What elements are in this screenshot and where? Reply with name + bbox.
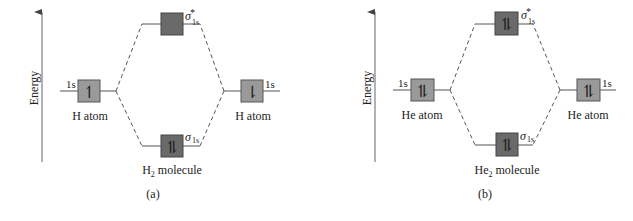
bonding-electrons: ⥮ — [500, 136, 514, 155]
panel-a: Energy ↿ 1s H atom ⇂ 1s H atom σ1s* ⥮ σ1… — [27, 7, 280, 201]
left-atom-orbital-label: 1s — [398, 77, 408, 89]
energy-axis-label: Energy — [27, 71, 41, 105]
panel-b: Energy ⥮ 1s He atom ⥮ 1s He atom ⥮ σ1s* … — [360, 6, 616, 201]
antibonding-electrons: ⥮ — [499, 15, 513, 34]
right-atom-label: H atom — [235, 109, 271, 123]
correlation-lines — [450, 24, 560, 145]
left-atom-electrons: ⥮ — [415, 82, 429, 101]
right-atom-electrons: ⥮ — [581, 82, 595, 101]
right-atom-label: He atom — [568, 108, 610, 122]
right-atom-orbital-label: 1s — [265, 78, 275, 90]
molecule-label: H2 molecule — [142, 163, 202, 179]
energy-axis-label: Energy — [360, 71, 374, 105]
correlation-lines — [116, 24, 224, 146]
bonding-label: σ1s — [185, 130, 199, 145]
left-atom-label: He atom — [402, 108, 444, 122]
antibonding-orbital-box — [161, 13, 183, 35]
right-atom-electrons: ⇂ — [245, 83, 259, 102]
antibonding-label: σ1s* — [521, 6, 535, 26]
right-atom-orbital-label: 1s — [602, 77, 612, 89]
bonding-electrons: ⥮ — [165, 138, 179, 157]
molecule-label: He2 molecule — [475, 163, 540, 179]
left-atom-label: H atom — [72, 109, 108, 123]
panel-caption: (b) — [478, 187, 492, 201]
left-atom-electrons: ↿ — [82, 83, 96, 102]
panel-caption: (a) — [146, 187, 159, 201]
left-atom-orbital-label: 1s — [66, 78, 76, 90]
bonding-label: σ1s — [520, 129, 534, 144]
